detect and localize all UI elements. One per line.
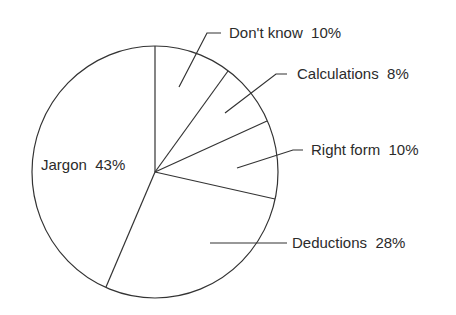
leader-line-right-form	[237, 150, 303, 168]
label-calculations: Calculations 8%	[297, 65, 409, 82]
leader-line-calculations	[225, 74, 287, 113]
spoke-rightform-deductions	[155, 172, 275, 199]
label-deductions: Deductions 28%	[292, 234, 405, 251]
label-dont-know: Don't know 10%	[229, 24, 341, 41]
pie-chart: Don't know 10% Calculations 8% Right for…	[0, 0, 456, 315]
spoke-dontknow-calculations	[155, 71, 228, 172]
label-right-form: Right form 10%	[311, 141, 419, 158]
spoke-deductions-jargon	[106, 172, 155, 287]
label-jargon: Jargon 43%	[41, 156, 125, 173]
leader-line-dont-know	[179, 33, 221, 87]
